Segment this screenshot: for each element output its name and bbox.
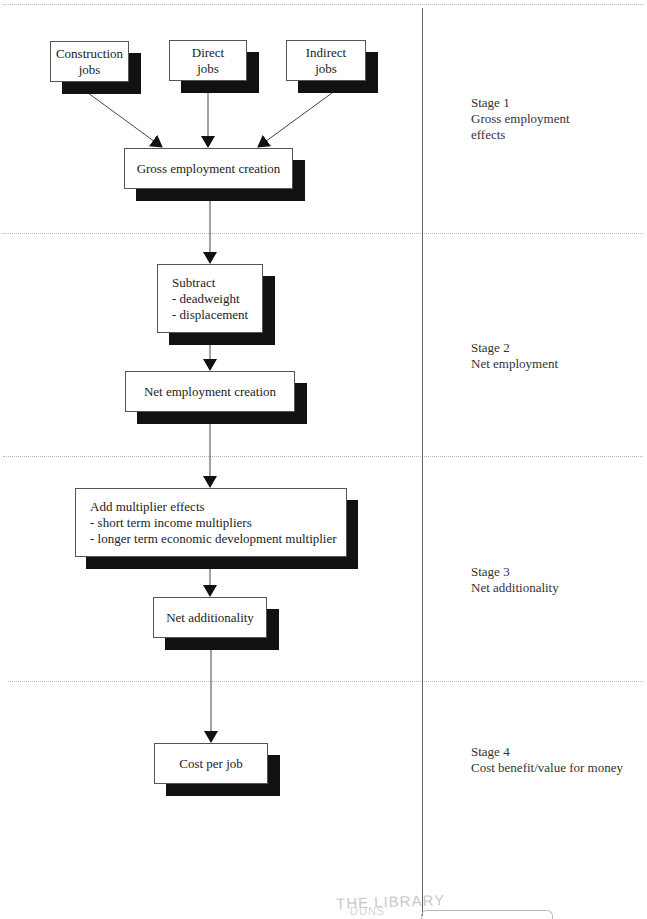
- label-line: - longer term economic development multi…: [90, 531, 337, 547]
- label-line: - short term income multipliers: [90, 515, 337, 531]
- stage-description: Net employment: [471, 356, 558, 372]
- stage-separator-top: [3, 4, 643, 5]
- stage-title: Stage 2: [471, 340, 558, 356]
- label-line: Net employment creation: [144, 384, 276, 400]
- stage-column-divider: [422, 8, 423, 916]
- label-line: jobs: [306, 61, 346, 77]
- box-gross-employment-creation: Gross employment creation: [124, 148, 293, 189]
- label-line: - deadweight: [172, 291, 248, 307]
- label-line: Direct: [192, 45, 224, 61]
- stage-description: effects: [471, 127, 570, 143]
- label-line: Subtract: [172, 275, 248, 291]
- stage-title: Stage 3: [471, 564, 559, 580]
- stage-2-label: Stage 2 Net employment: [471, 340, 558, 372]
- stage-title: Stage 4: [471, 744, 623, 760]
- box-subtract: Subtract- deadweight- displacement: [157, 264, 263, 333]
- stage-description: Gross employment: [471, 111, 570, 127]
- stage-description: Net additionality: [471, 580, 559, 596]
- stage-4-label: Stage 4 Cost benefit/value for money: [471, 744, 623, 776]
- stage-1-label: Stage 1 Gross employment effects: [471, 95, 570, 143]
- label-line: Net additionality: [166, 610, 254, 626]
- arrow-indirect-to-gross: [258, 93, 332, 147]
- label-line: Gross employment creation: [137, 161, 281, 177]
- box-net-additionality: Net additionality: [153, 597, 267, 638]
- library-stamp-frame: [421, 910, 553, 919]
- stage-separator-1-2: [3, 233, 643, 234]
- label-line: Add multiplier effects: [90, 499, 337, 515]
- box-indirect-jobs: Indirectjobs: [286, 40, 366, 81]
- stage-3-label: Stage 3 Net additionality: [471, 564, 559, 596]
- label-line: Indirect: [306, 45, 346, 61]
- box-construction-jobs: Constructionjobs: [50, 41, 129, 82]
- stage-separator-2-3: [3, 456, 643, 457]
- label-line: Cost per job: [179, 756, 243, 772]
- arrow-construction-to-gross: [88, 93, 162, 147]
- label-line: jobs: [192, 61, 224, 77]
- box-add-multiplier-effects: Add multiplier effects- short term incom…: [75, 488, 347, 557]
- box-direct-jobs: Directjobs: [169, 40, 247, 81]
- stage-description: Cost benefit/value for money: [471, 760, 623, 776]
- label-line: - displacement: [172, 307, 248, 323]
- box-cost-per-job: Cost per job: [154, 743, 268, 784]
- library-stamp-partial: DUNS: [350, 905, 385, 917]
- label-line: Construction: [56, 46, 123, 62]
- box-net-employment-creation: Net employment creation: [125, 371, 295, 412]
- stage-title: Stage 1: [471, 95, 570, 111]
- label-line: jobs: [56, 62, 123, 78]
- stage-separator-3-4: [8, 681, 643, 682]
